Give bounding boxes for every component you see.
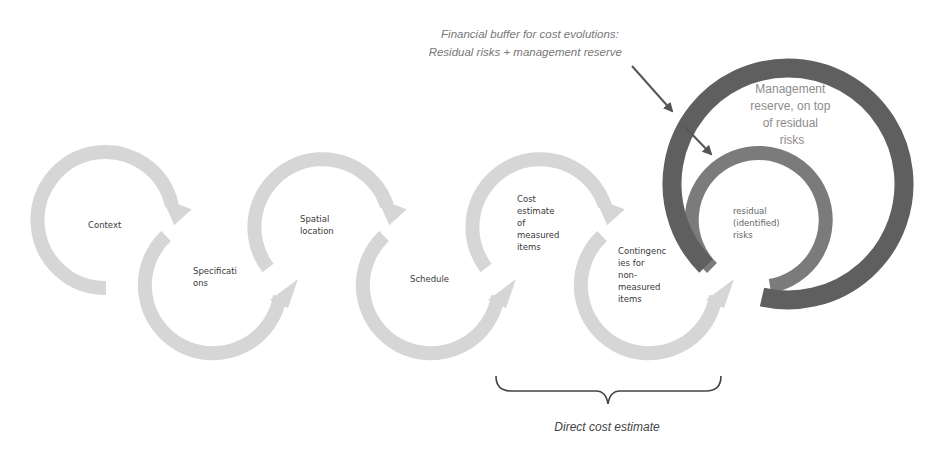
step-arrow-specifications: Specificati ons bbox=[145, 236, 298, 353]
annotation-line-2: Residual risks + management reserve bbox=[429, 46, 622, 58]
cost-estimate-diagram: Context Specificati ons Spatial location… bbox=[0, 0, 933, 455]
financial-buffer-annotation: Financial buffer for cost evolutions: Re… bbox=[429, 28, 711, 154]
management-reserve-label: Management reserve, on top of residual r… bbox=[750, 82, 833, 147]
step-label-context: Context bbox=[88, 220, 122, 230]
step-arrow-context: Context bbox=[37, 152, 191, 288]
svg-text:Financial buffer for cost evol: Financial buffer for cost evolutions: Re… bbox=[429, 28, 622, 58]
annotation-line-1: Financial buffer for cost evolutions: bbox=[441, 28, 619, 40]
step-arrow-schedule: Schedule bbox=[363, 236, 516, 353]
pointer-arrow-reserve bbox=[632, 66, 672, 111]
direct-cost-brace: Direct cost estimate bbox=[496, 376, 721, 434]
step-arrow-cost-estimate: Cost estimate of measured items bbox=[472, 159, 624, 268]
step-arrow-spatial-location: Spatial location bbox=[254, 159, 406, 268]
step-label-cost-estimate: Cost estimate of measured items bbox=[517, 194, 562, 252]
step-label-spatial-location: Spatial location bbox=[300, 214, 334, 236]
step-label-specifications: Specificati ons bbox=[193, 266, 240, 288]
step-arrow-contingencies: Contingenc ies for non- measured items bbox=[581, 236, 734, 353]
step-label-contingencies: Contingenc ies for non- measured items bbox=[618, 246, 669, 304]
direct-cost-caption: Direct cost estimate bbox=[554, 420, 660, 434]
step-label-schedule: Schedule bbox=[410, 274, 449, 284]
residual-risks-ring: residual (identified) risks bbox=[692, 153, 826, 286]
residual-risks-label: residual (identified) risks bbox=[733, 206, 782, 240]
